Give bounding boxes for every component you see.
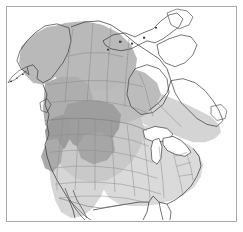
- north-america-map[interactable]: [7, 7, 236, 221]
- coastline-baffin-island: [157, 35, 197, 67]
- coastline-newfoundland: [211, 105, 227, 121]
- coastline-ellesmere: [167, 9, 193, 29]
- coastline-florida: [159, 202, 171, 220]
- map-canvas[interactable]: [7, 7, 236, 221]
- map-frame: [6, 6, 237, 222]
- map-figure: [0, 0, 243, 232]
